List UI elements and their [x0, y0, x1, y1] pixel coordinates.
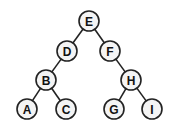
edge-H-G [119, 89, 126, 101]
tree-node-F: F [100, 41, 120, 61]
node-label: G [109, 103, 118, 117]
node-label: E [85, 15, 93, 29]
tree-nodes: EDFBHACGI [17, 11, 162, 119]
tree-node-B: B [36, 70, 56, 90]
tree-node-E: E [79, 11, 99, 31]
edge-F-H [116, 59, 125, 72]
edge-H-I [137, 88, 146, 101]
node-label: D [63, 45, 72, 59]
binary-tree-diagram: EDFBHACGI [0, 0, 176, 131]
tree-node-D: D [57, 41, 77, 61]
node-label: A [23, 103, 32, 117]
node-label: H [127, 74, 136, 88]
tree-node-C: C [56, 99, 76, 119]
edge-B-C [52, 88, 61, 101]
node-label: C [62, 103, 71, 117]
tree-node-G: G [104, 99, 124, 119]
edge-D-B [52, 59, 61, 72]
node-label: F [106, 45, 113, 59]
edge-E-D [73, 29, 83, 43]
tree-node-I: I [142, 99, 162, 119]
tree-node-H: H [121, 70, 141, 90]
node-label: B [42, 74, 51, 88]
edge-B-A [32, 88, 40, 100]
node-label: I [150, 103, 153, 117]
tree-node-A: A [17, 99, 37, 119]
edge-E-F [95, 29, 105, 43]
